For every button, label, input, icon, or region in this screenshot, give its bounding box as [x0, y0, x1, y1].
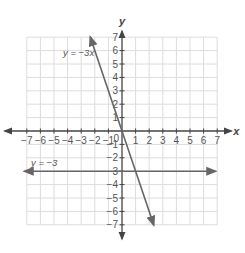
- x-axis-label: x: [232, 125, 240, 137]
- x-tick-label: −3: [75, 135, 87, 146]
- y-tick-label: −7: [107, 219, 119, 230]
- x-tick-label: 1: [133, 135, 139, 146]
- x-tick-label: 7: [214, 135, 220, 146]
- y-tick-label: 6: [112, 45, 118, 56]
- x-tick-label: −2: [89, 135, 101, 146]
- y-axis-label: y: [118, 15, 126, 27]
- x-tick-label: −7: [21, 135, 33, 146]
- y-tick-label: −6: [107, 206, 119, 217]
- y-tick-label: −4: [107, 179, 119, 190]
- x-tick-label: −4: [62, 135, 74, 146]
- x-tick-label: 5: [187, 135, 193, 146]
- line-labels: y = −3xy = −3: [30, 47, 95, 168]
- x-tick-label: −6: [35, 135, 47, 146]
- x-tick-label: 4: [174, 135, 180, 146]
- y-tick-label: −5: [107, 193, 119, 204]
- y-tick-label: 7: [112, 32, 118, 43]
- x-tick-label: 3: [160, 135, 166, 146]
- graph-svg: xy −7−6−5−4−3−2−112345677654321−1−2−3−4−…: [0, 0, 245, 253]
- y-tick-label: 4: [112, 72, 118, 83]
- x-tick-label: 6: [201, 135, 207, 146]
- coordinate-plane: xy −7−6−5−4−3−2−112345677654321−1−2−3−4−…: [0, 0, 245, 253]
- origin-label: 0: [113, 133, 119, 144]
- label-y-equals-neg3: y = −3: [30, 157, 58, 168]
- label-y-equals-neg3x: y = −3x: [62, 47, 95, 58]
- x-tick-label: −5: [48, 135, 60, 146]
- x-tick-label: 2: [146, 135, 152, 146]
- y-tick-label: −2: [107, 152, 119, 163]
- y-tick-label: 3: [112, 85, 118, 96]
- y-tick-label: 5: [112, 59, 118, 70]
